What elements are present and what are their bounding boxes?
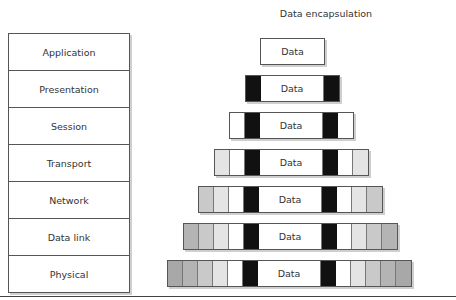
trailer-cell (337, 224, 352, 249)
layer-session: Session (9, 108, 129, 145)
diagram-title: Data encapsulation (256, 8, 396, 19)
trailer-cell (396, 261, 411, 286)
pdu-data-link: Data (183, 223, 398, 250)
trailer-cell (367, 224, 382, 249)
trailer-cell (382, 224, 397, 249)
trailer-cell (323, 113, 338, 138)
trailer-cell (323, 150, 338, 175)
trailer-cell (322, 187, 337, 212)
trailer-cell (337, 187, 352, 212)
pdu-session: Data (229, 112, 354, 139)
trailer-cell (352, 224, 367, 249)
header-cell (230, 150, 245, 175)
header-cell (214, 187, 229, 212)
header-cell (199, 187, 214, 212)
header-cell (213, 261, 228, 286)
pdu-transport: Data (214, 149, 369, 176)
header-cell (215, 150, 230, 175)
trailer-cell (338, 150, 353, 175)
trailer-cell (338, 113, 353, 138)
trailer-cell (366, 261, 381, 286)
trailer-cell (351, 261, 366, 286)
data-payload: Data (259, 224, 322, 249)
header-cell (246, 76, 261, 101)
pdu-physical: Data (167, 260, 412, 287)
data-payload: Data (261, 39, 324, 64)
header-cell (243, 261, 258, 286)
header-cell (184, 224, 199, 249)
header-cell (245, 113, 260, 138)
header-cell (230, 113, 245, 138)
trailer-cell (367, 187, 382, 212)
layer-data-link: Data link (9, 219, 129, 256)
header-cell (229, 224, 244, 249)
header-cell (199, 224, 214, 249)
layer-physical: Physical (9, 256, 129, 292)
trailer-cell (352, 187, 367, 212)
layer-network: Network (9, 182, 129, 219)
trailer-cell (336, 261, 351, 286)
header-cell (244, 187, 259, 212)
trailer-cell (324, 76, 339, 101)
data-payload: Data (260, 113, 323, 138)
baseline-divider (0, 296, 456, 297)
header-cell (228, 261, 243, 286)
trailer-cell (321, 261, 336, 286)
header-cell (198, 261, 213, 286)
pdu-presentation: Data (245, 75, 340, 102)
header-cell (229, 187, 244, 212)
trailer-cell (353, 150, 368, 175)
trailer-cell (381, 261, 396, 286)
layer-presentation: Presentation (9, 71, 129, 108)
pdu-network: Data (198, 186, 383, 213)
header-cell (168, 261, 183, 286)
header-cell (214, 224, 229, 249)
data-payload: Data (261, 76, 324, 101)
data-payload: Data (260, 150, 323, 175)
data-payload: Data (259, 187, 322, 212)
header-cell (244, 224, 259, 249)
trailer-cell (322, 224, 337, 249)
header-cell (183, 261, 198, 286)
data-payload: Data (258, 261, 321, 286)
osi-layer-stack: Application Presentation Session Transpo… (8, 33, 130, 293)
header-cell (245, 150, 260, 175)
layer-application: Application (9, 34, 129, 71)
pdu-application: Data (260, 38, 325, 65)
layer-transport: Transport (9, 145, 129, 182)
